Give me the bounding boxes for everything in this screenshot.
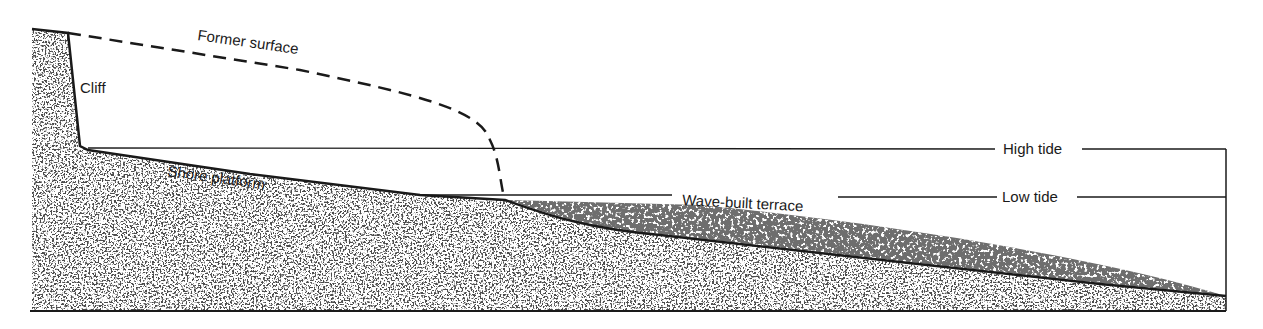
- low-tide-label: Low tide: [1002, 188, 1058, 205]
- low-tide-line: [420, 195, 1226, 197]
- high-tide-label: High tide: [1003, 140, 1062, 157]
- former-surface-label: Former surface: [197, 26, 300, 57]
- cliff-label: Cliff: [80, 79, 106, 96]
- coastal-erosion-diagram: Former surface Cliff Shore platform Wave…: [0, 0, 1263, 329]
